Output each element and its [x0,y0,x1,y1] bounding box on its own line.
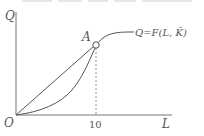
curve-label: Q=F(L, K̄) [135,27,187,38]
point-a-label: A [81,30,91,44]
x-axis-label: L [161,117,170,131]
point-a-marker [93,42,99,48]
total-product-curve [16,32,134,115]
y-axis-label: Q [5,9,15,23]
cropped-text-remnant [22,0,192,2]
origin-label: O [4,116,14,130]
production-function-diagram: Q O L 10 A Q=F(L, K̄) [0,0,204,136]
x-tick-label-10: 10 [89,119,102,130]
ray-from-origin [16,46,94,115]
